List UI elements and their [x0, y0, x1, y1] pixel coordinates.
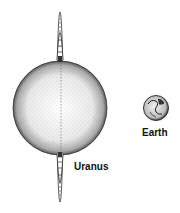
uranus-planet: [13, 61, 107, 155]
planet-comparison-diagram: [0, 0, 180, 213]
uranus-label: Uranus: [74, 161, 108, 172]
earth-planet: [144, 96, 169, 121]
earth-label: Earth: [142, 127, 168, 138]
